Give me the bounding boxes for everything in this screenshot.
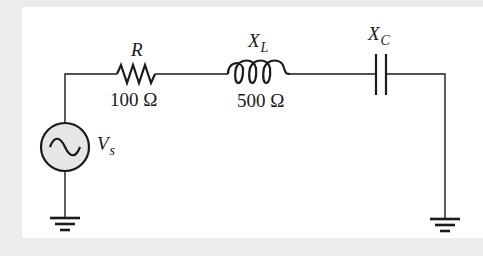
inductor-subscript: L <box>261 40 269 55</box>
ac-source-icon <box>41 123 89 171</box>
capacitor-icon <box>376 54 386 95</box>
source-subscript: s <box>110 143 115 158</box>
resistor-symbol-label: R <box>131 40 143 59</box>
inductor-symbol-label: XL <box>248 31 268 50</box>
resistor-icon <box>117 65 155 83</box>
ground-icon-left <box>50 218 80 230</box>
inductor-symbol: X <box>248 30 260 51</box>
capacitor-symbol: X <box>368 23 380 44</box>
source-label: Vs <box>97 134 115 153</box>
source-symbol: V <box>97 133 109 154</box>
capacitor-symbol-label: XC <box>368 24 390 43</box>
resistor-value-label: 100 Ω <box>110 90 157 109</box>
ground-icon-right <box>430 219 460 231</box>
circuit-diagram <box>0 0 483 256</box>
inductor-value-label: 500 Ω <box>237 91 284 110</box>
capacitor-subscript: C <box>381 33 390 48</box>
wire-right <box>386 74 445 218</box>
inductor-icon <box>228 61 290 84</box>
